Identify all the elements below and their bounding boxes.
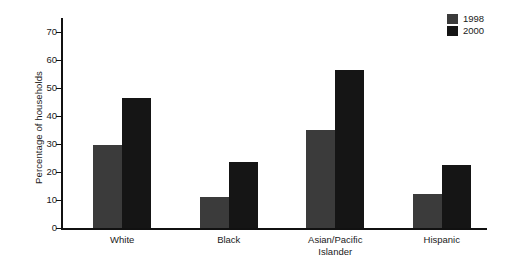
- y-tick-label: 10: [46, 194, 57, 205]
- legend-item-1998: 1998: [447, 13, 505, 24]
- legend-item-2000: 2000: [447, 25, 505, 36]
- bar: [93, 145, 122, 228]
- bar: [306, 130, 335, 228]
- y-tick-label: 20: [46, 166, 57, 177]
- y-tick-label: 0: [52, 222, 57, 233]
- legend-label-1998: 1998: [463, 14, 484, 24]
- bar-group: [413, 18, 471, 228]
- bar: [122, 98, 151, 228]
- x-axis-label: Hispanic: [372, 234, 505, 246]
- legend-label-2000: 2000: [463, 26, 484, 36]
- legend-swatch-icon-1998: [447, 14, 458, 24]
- bar: [229, 162, 258, 228]
- bar-groups: [61, 18, 487, 228]
- y-tick-label: 40: [46, 110, 57, 121]
- plot-area: 010203040506070 WhiteBlackAsian/Pacific …: [61, 18, 487, 228]
- bar-group: [200, 18, 258, 228]
- y-tick-label: 50: [46, 82, 57, 93]
- y-tick-label: 60: [46, 54, 57, 65]
- bar-group: [93, 18, 151, 228]
- bar-chart: Percentage of households 010203040506070…: [0, 0, 505, 268]
- bar: [413, 194, 442, 228]
- bar: [335, 70, 364, 228]
- legend: 1998 2000: [447, 13, 505, 37]
- bar: [200, 197, 229, 228]
- y-tick-label: 70: [46, 26, 57, 37]
- x-axis-line: [61, 228, 487, 230]
- legend-swatch-icon-2000: [447, 26, 458, 36]
- y-tick-label: 30: [46, 138, 57, 149]
- bar: [442, 165, 471, 228]
- bar-group: [306, 18, 364, 228]
- y-axis-title: Percentage of households: [33, 38, 44, 218]
